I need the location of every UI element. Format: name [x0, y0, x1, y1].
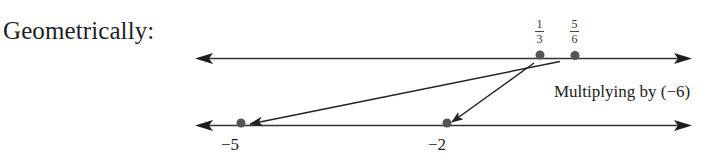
numerator: 5: [571, 18, 579, 30]
dot-minus-five: [237, 119, 246, 128]
denominator: 6: [571, 33, 579, 45]
numerator: 1: [536, 18, 544, 30]
dot-one-third: [536, 51, 545, 60]
label-five-sixths: 5 6: [570, 18, 579, 45]
label-minus-five: −5: [221, 136, 239, 153]
operation-label: Multiplying by (−6): [554, 83, 690, 100]
denominator: 3: [536, 33, 544, 45]
mapping-arrow-one-third-to-minus-two: [452, 63, 534, 122]
dot-minus-two: [443, 119, 452, 128]
mapping-arrow-five-sixths-to-minus-five: [250, 62, 560, 125]
number-line-diagram: [0, 0, 722, 161]
top-number-line: [195, 53, 692, 64]
label-minus-two: −2: [428, 136, 446, 153]
dot-five-sixths: [571, 51, 580, 60]
label-one-third: 1 3: [535, 18, 544, 45]
mapping-arrows: [250, 62, 560, 125]
